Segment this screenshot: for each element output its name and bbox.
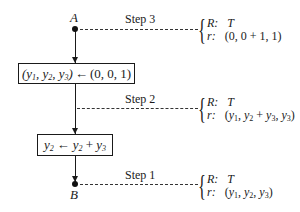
step-1-dashed-line <box>80 184 198 185</box>
step-3-r-key: r: <box>207 29 216 43</box>
step-2-dashed-line <box>77 108 198 109</box>
assignment-box-2: y2 ← y2 + y3 <box>37 134 113 156</box>
step-3-R-key: R: <box>207 16 218 30</box>
step-3-r-val: (0, 0 + 1, 1) <box>225 29 282 43</box>
step-2-assertions: R: T r: (y1, y2 + y3, y3) <box>207 96 295 125</box>
step-1-brace: { <box>198 170 206 200</box>
step-2-R-key: R: <box>207 95 218 109</box>
step-1-R-key: R: <box>207 172 218 186</box>
point-b-label: B <box>70 187 78 203</box>
assignment-box-1: (y1, y2, y3) ← (0, 0, 1) <box>18 63 135 84</box>
step-3-brace: { <box>198 14 206 44</box>
step-2-brace: { <box>198 93 206 123</box>
step-2-R-val: T <box>227 95 234 109</box>
step-1-R-val: T <box>227 172 234 186</box>
step-3-assertions: R: T r: (0, 0 + 1, 1) <box>207 17 281 43</box>
point-a-label: A <box>70 10 78 26</box>
assign-arrow-1: ← <box>75 66 88 82</box>
step-1-assertions: R: T r: (y1, y2, y3) <box>207 173 273 202</box>
assign-arrow-2: ← <box>57 137 70 153</box>
box-1-rhs: (0, 0, 1) <box>90 66 131 82</box>
step-2-r-val: (y1, y2 + y3, y3) <box>225 108 295 122</box>
step-1-r-val: (y1, y2, y3) <box>225 185 273 199</box>
point-a-dot <box>72 26 78 32</box>
step-1-label: Step 1 <box>125 168 155 183</box>
step-2-label: Step 2 <box>125 92 155 107</box>
step-3-R-val: T <box>227 16 234 30</box>
step-3-dashed-line <box>80 29 198 30</box>
flow-line-middle <box>75 83 76 134</box>
step-3-label: Step 3 <box>125 12 155 27</box>
